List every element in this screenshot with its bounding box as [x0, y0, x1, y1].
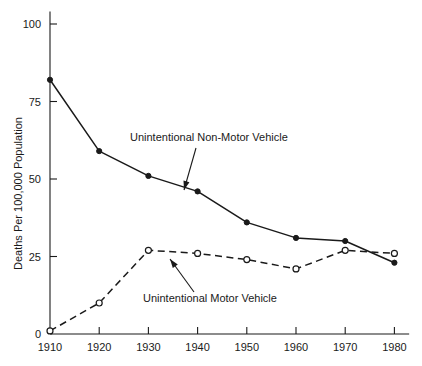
x-tick-label: 1930: [136, 341, 160, 353]
data-point: [293, 235, 298, 240]
series-line-0: [50, 80, 394, 263]
annotation-arrow-head-1: [170, 259, 178, 268]
y-tick-label: 50: [29, 173, 41, 185]
y-tick-label-group: 0255075100: [23, 18, 41, 340]
x-tick-group: [99, 327, 394, 334]
data-point: [342, 247, 348, 253]
x-tick-label: 1910: [38, 341, 62, 353]
annotation-group: Unintentional Non-Motor VehicleUnintenti…: [130, 131, 288, 304]
data-point: [96, 300, 102, 306]
x-tick-label: 1960: [284, 341, 308, 353]
x-tick-label: 1980: [382, 341, 406, 353]
x-axis: 19101920193019401950196019701980: [38, 327, 409, 353]
line-chart: 0255075100 19101920193019401950196019701…: [0, 0, 422, 366]
y-axis-title: Deaths Per 100,000 Population: [12, 117, 24, 270]
data-point: [293, 266, 299, 272]
y-tick-label: 100: [23, 18, 41, 30]
series-line-1: [50, 250, 394, 331]
x-tick-label: 1970: [333, 341, 357, 353]
series-annotation-label-1: Unintentional Motor Vehicle: [143, 292, 277, 304]
data-point: [97, 149, 102, 154]
y-axis: 0255075100: [23, 12, 57, 340]
data-point: [391, 250, 397, 256]
x-tick-label: 1950: [235, 341, 259, 353]
data-point: [244, 220, 249, 225]
data-point: [47, 77, 52, 82]
y-tick-label: 25: [29, 251, 41, 263]
y-tick-label: 75: [29, 96, 41, 108]
chart-container: 0255075100 19101920193019401950196019701…: [0, 0, 422, 366]
data-point: [195, 250, 201, 256]
x-tick-label-group: 19101920193019401950196019701980: [38, 341, 407, 353]
x-tick-label: 1920: [87, 341, 111, 353]
x-tick-label: 1940: [185, 341, 209, 353]
y-tick-group: [50, 24, 57, 257]
data-point: [47, 328, 53, 334]
data-point: [343, 238, 348, 243]
data-point: [195, 189, 200, 194]
data-point: [146, 173, 151, 178]
series-annotation-label-0: Unintentional Non-Motor Vehicle: [130, 131, 288, 143]
data-point: [145, 247, 151, 253]
data-point: [244, 257, 250, 263]
y-tick-label: 0: [35, 328, 41, 340]
data-point: [392, 260, 397, 265]
